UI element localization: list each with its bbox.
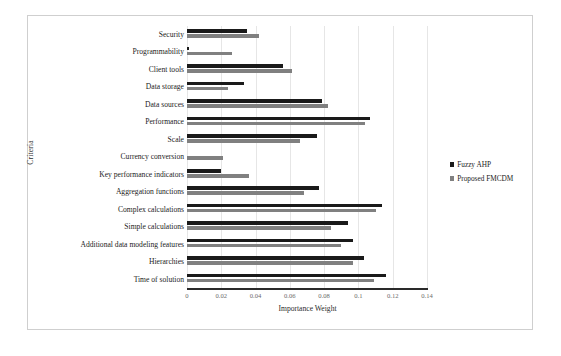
y-axis-title: Criteria	[26, 113, 35, 193]
bar-fuzzy-ahp	[187, 99, 322, 103]
bar-proposed-fmcdm	[187, 279, 374, 283]
category-label: Time of solution	[134, 272, 184, 288]
x-tick-label: 0.1	[354, 292, 362, 299]
category-label: Complex calculations	[118, 202, 184, 218]
category-label: Scale	[168, 132, 184, 148]
bar-fuzzy-ahp	[187, 221, 348, 225]
x-tick-label: 0.04	[250, 292, 262, 299]
gridline	[324, 26, 325, 288]
bar-fuzzy-ahp	[187, 169, 221, 173]
gridline	[358, 26, 359, 288]
bar-fuzzy-ahp	[187, 47, 189, 51]
square-marker-icon	[450, 176, 454, 180]
gridline	[290, 26, 291, 288]
chart-legend: Fuzzy AHPProposed FMCDM	[450, 160, 513, 188]
x-tick-label: 0	[185, 292, 188, 299]
bar-fuzzy-ahp	[187, 134, 317, 138]
bar-fuzzy-ahp	[187, 64, 283, 68]
category-label: Hierarchies	[149, 254, 184, 270]
category-label: Data storage	[146, 79, 184, 95]
legend-label: Fuzzy AHP	[457, 160, 491, 169]
category-label: Aggregation functions	[116, 184, 184, 200]
bar-fuzzy-ahp	[187, 274, 386, 278]
bar-proposed-fmcdm	[187, 87, 228, 91]
category-label: Additional data modeling features	[80, 237, 184, 253]
chart-figure: Criteria SecurityProgrammabilityClient t…	[0, 0, 561, 356]
x-tick-label: 0.12	[387, 292, 399, 299]
bar-fuzzy-ahp	[187, 29, 247, 33]
bar-proposed-fmcdm	[187, 209, 376, 213]
square-marker-icon	[450, 162, 454, 166]
bar-proposed-fmcdm	[187, 104, 328, 108]
bar-proposed-fmcdm	[187, 174, 249, 178]
bar-proposed-fmcdm	[187, 156, 223, 160]
x-tick-label: 0.06	[284, 292, 296, 299]
x-axis-tick-labels: 00.020.040.060.080.10.120.14	[187, 292, 428, 304]
x-tick-label: 0.02	[216, 292, 228, 299]
bar-proposed-fmcdm	[187, 69, 292, 73]
bar-proposed-fmcdm	[187, 244, 341, 248]
legend-label: Proposed FMCDM	[457, 174, 513, 183]
bar-fuzzy-ahp	[187, 256, 364, 260]
bar-proposed-fmcdm	[187, 34, 259, 38]
category-label: Simple calculations	[124, 219, 184, 235]
category-label: Performance	[145, 114, 184, 130]
bar-fuzzy-ahp	[187, 117, 370, 121]
bar-fuzzy-ahp	[187, 204, 382, 208]
bar-proposed-fmcdm	[187, 52, 232, 56]
bar-proposed-fmcdm	[187, 139, 300, 143]
x-tick-label: 0.08	[318, 292, 330, 299]
bar-proposed-fmcdm	[187, 122, 365, 126]
bar-proposed-fmcdm	[187, 226, 331, 230]
bar-fuzzy-ahp	[187, 239, 353, 243]
category-label: Currency conversion	[121, 149, 184, 165]
category-label: Client tools	[149, 62, 184, 78]
bar-fuzzy-ahp	[187, 82, 244, 86]
bar-fuzzy-ahp	[187, 186, 319, 190]
category-label-column: SecurityProgrammabilityClient toolsData …	[40, 26, 184, 288]
x-tick-label: 0.14	[421, 292, 433, 299]
bar-proposed-fmcdm	[187, 191, 304, 195]
x-axis-line	[187, 288, 428, 290]
legend-item: Fuzzy AHP	[450, 160, 513, 169]
plot-area	[187, 26, 427, 288]
legend-item: Proposed FMCDM	[450, 174, 513, 183]
category-label: Programmability	[133, 44, 184, 60]
bar-proposed-fmcdm	[187, 261, 353, 265]
gridline	[393, 26, 394, 288]
gridline	[427, 26, 428, 288]
category-label: Key performance indicators	[99, 167, 184, 183]
category-label: Data sources	[145, 97, 184, 113]
category-label: Security	[159, 27, 184, 43]
x-axis-title: Importance Weight	[187, 304, 428, 313]
